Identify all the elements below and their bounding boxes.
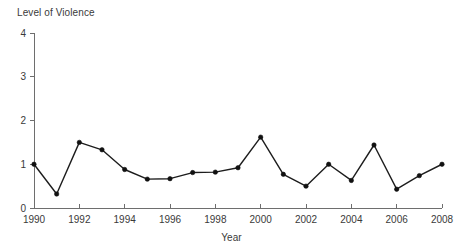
data-point: [122, 167, 126, 171]
x-tick-label: 2004: [340, 214, 363, 225]
violence-level-line-chart: Level of Violence 01234 1990199219941996…: [0, 0, 463, 252]
data-point: [394, 187, 398, 191]
x-axis-title: Year: [0, 232, 463, 243]
x-tick-label: 2008: [431, 214, 454, 225]
data-point: [349, 178, 353, 182]
y-tick-label: 2: [20, 115, 26, 126]
x-tick-label: 1990: [23, 214, 46, 225]
data-point: [168, 176, 172, 180]
data-point: [281, 172, 285, 176]
y-tick-label: 4: [20, 28, 26, 39]
data-point: [258, 135, 262, 139]
x-tick-label: 2000: [250, 214, 273, 225]
x-axis: 1990199219941996199820002002200420062008: [23, 204, 454, 225]
x-tick-label: 1992: [68, 214, 91, 225]
data-series: [32, 135, 444, 196]
x-tick-label: 2006: [386, 214, 409, 225]
x-tick-label: 1998: [204, 214, 227, 225]
data-point: [440, 162, 444, 166]
data-point: [417, 173, 421, 177]
y-tick-label: 0: [20, 203, 26, 214]
x-tick-label: 2002: [295, 214, 318, 225]
data-point: [236, 166, 240, 170]
y-tick-label: 1: [20, 159, 26, 170]
data-point: [372, 143, 376, 147]
y-axis: 01234: [20, 28, 34, 214]
data-point: [326, 162, 330, 166]
data-point: [190, 170, 194, 174]
data-point: [77, 140, 81, 144]
data-point: [145, 177, 149, 181]
y-tick-label: 3: [20, 71, 26, 82]
data-point: [213, 170, 217, 174]
chart-plot-area: 01234 1990199219941996199820002002200420…: [0, 0, 463, 252]
x-tick-label: 1994: [114, 214, 137, 225]
data-point: [304, 184, 308, 188]
data-point: [100, 148, 104, 152]
data-point: [54, 192, 58, 196]
x-tick-label: 1996: [159, 214, 182, 225]
data-point: [32, 162, 36, 166]
